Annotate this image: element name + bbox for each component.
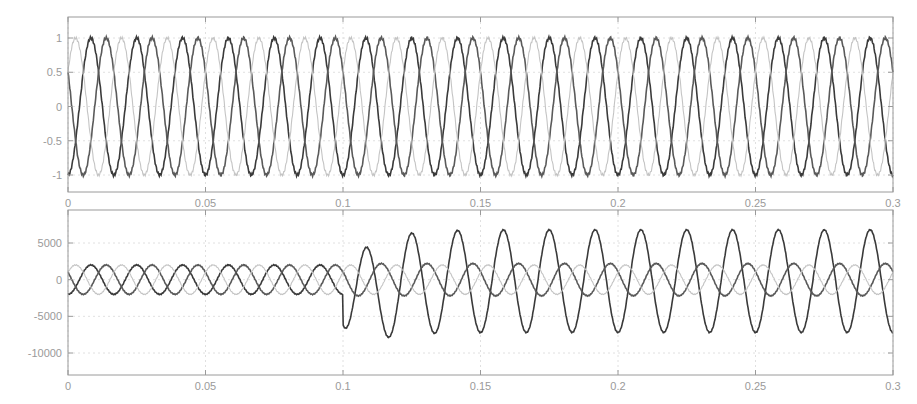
- x-tick-label: 0.15: [470, 197, 491, 209]
- x-tick-label: 0.1: [335, 197, 350, 209]
- x-tick-label: 0: [65, 197, 71, 209]
- top-plot-axes: 00.050.10.150.20.250.310.50-0.5-1: [43, 17, 901, 209]
- y-tick-label: -5000: [34, 310, 62, 322]
- x-tick-label: 0.3: [885, 197, 900, 209]
- x-tick-label: 0.1: [335, 380, 350, 392]
- x-tick-label: 0: [65, 380, 71, 392]
- x-tick-label: 0.05: [195, 197, 216, 209]
- x-tick-label: 0.15: [470, 380, 491, 392]
- y-tick-label: 1: [56, 32, 62, 44]
- x-tick-label: 0.05: [195, 380, 216, 392]
- x-tick-label: 0.25: [745, 197, 766, 209]
- y-tick-label: 0.5: [47, 66, 62, 78]
- y-tick-label: 5000: [38, 237, 62, 249]
- y-tick-label: 0: [56, 101, 62, 113]
- x-tick-label: 0.2: [610, 197, 625, 209]
- bottom-plot-axes: 00.050.10.150.20.250.350000-5000-10000: [28, 210, 901, 392]
- y-tick-label: -10000: [28, 347, 62, 359]
- y-tick-label: -0.5: [43, 135, 62, 147]
- x-tick-label: 0.3: [885, 380, 900, 392]
- y-tick-label: 0: [56, 274, 62, 286]
- y-tick-label: -1: [52, 169, 62, 181]
- x-tick-label: 0.25: [745, 380, 766, 392]
- chart-figure: 00.050.10.150.20.250.310.50-0.5-1 00.050…: [0, 0, 917, 404]
- x-tick-label: 0.2: [610, 380, 625, 392]
